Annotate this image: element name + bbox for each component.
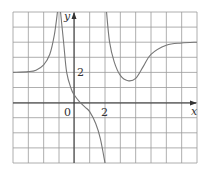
origin-label: 0: [64, 106, 71, 119]
x-axis-label: x: [191, 105, 198, 118]
y-axis-label: y: [63, 10, 71, 23]
y-axis-arrow-icon: [72, 12, 77, 19]
x-tick-2-label: 2: [101, 106, 108, 119]
grid: [13, 12, 197, 163]
y-tick-2-label: 2: [77, 66, 84, 79]
function-graph: y x 0 2 2: [0, 0, 208, 171]
